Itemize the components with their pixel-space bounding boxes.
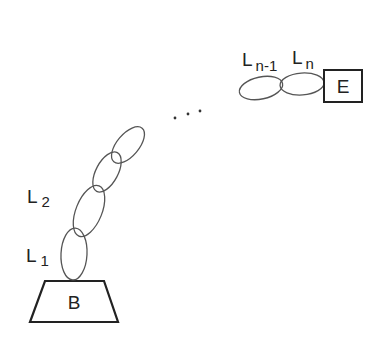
link-2-label: L2: [27, 186, 50, 210]
link-n-label: Ln: [292, 47, 314, 72]
link-4-ellipse: [105, 121, 150, 169]
end-effector-label: E: [337, 76, 350, 97]
link-chain: [60, 121, 151, 281]
link-n-ellipse: [279, 71, 324, 96]
base-label: B: [68, 292, 81, 313]
link-1-label: L1: [26, 245, 49, 269]
link-3-ellipse: [87, 147, 127, 196]
ellipsis-dots: [174, 110, 202, 120]
link-n-minus-1-ellipse: [237, 73, 285, 104]
link-n-minus-1-label: Ln-1: [242, 49, 277, 74]
kinematic-chain-diagram: B E L1 L2 Ln-1 Ln: [0, 0, 387, 345]
link-1-ellipse: [60, 227, 89, 280]
